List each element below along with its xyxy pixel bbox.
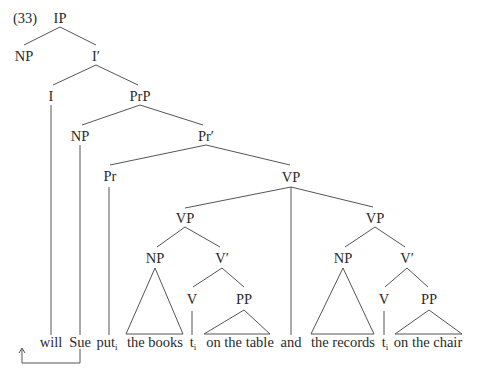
leaf-put: puti — [96, 334, 118, 352]
node-IP: IP — [54, 10, 67, 26]
node-V-right: V — [379, 291, 390, 307]
node-VP-left: VP — [176, 210, 195, 226]
tree-nodes: IP NP I′ I PrP NP Pr′ Pr VP VP VP NP V′ … — [15, 10, 437, 307]
leaf-will: will — [40, 334, 63, 350]
leaf-on-the-chair: on the chair — [394, 334, 463, 350]
node-PP-right: PP — [421, 291, 437, 307]
leaf-trace-2: ti — [382, 334, 389, 352]
example-number: (33) — [13, 10, 37, 27]
node-I: I — [49, 88, 54, 104]
tree-branches — [24, 27, 462, 335]
leaf-Sue: Sue — [69, 334, 91, 350]
leaf-and: and — [281, 334, 303, 350]
leaf-on-the-table: on the table — [206, 334, 274, 350]
node-PP-left: PP — [236, 291, 252, 307]
triangle-the-books — [126, 268, 183, 334]
leaf-trace-1: ti — [190, 334, 197, 352]
node-NP-subject: NP — [15, 48, 34, 64]
node-NP-right: NP — [334, 250, 353, 266]
node-Pr-bar: Pr′ — [198, 128, 214, 144]
node-NP-spec-PrP: NP — [71, 128, 90, 144]
node-NP-left: NP — [146, 250, 165, 266]
node-I-bar: I′ — [92, 48, 100, 64]
triangle-on-the-table — [204, 310, 270, 334]
leaf-the-records: the records — [311, 334, 375, 350]
movement-arrow — [19, 348, 80, 363]
node-V-left: V — [187, 291, 198, 307]
node-V-bar-right: V′ — [400, 250, 414, 266]
leaf-the-books: the books — [127, 334, 183, 350]
tree-leaves: will Sue puti the books ti on the table … — [40, 334, 463, 352]
triangle-the-records — [311, 268, 374, 334]
node-V-bar-left: V′ — [215, 250, 229, 266]
node-Pr: Pr — [104, 168, 117, 184]
node-PrP: PrP — [130, 88, 151, 104]
triangle-on-the-chair — [395, 310, 462, 334]
node-VP-coord: VP — [282, 169, 301, 185]
syntax-tree-diagram: (33) IP — [0, 0, 481, 383]
node-VP-right: VP — [366, 210, 385, 226]
